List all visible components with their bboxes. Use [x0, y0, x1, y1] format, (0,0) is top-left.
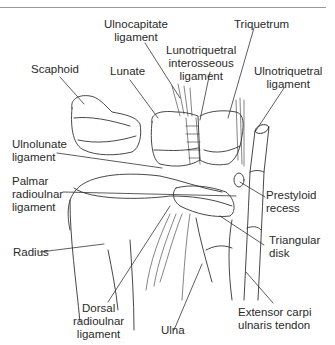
label-extensor-carpi-ulnaris-tendon: Extensor carpi ulnaris tendon — [238, 306, 312, 332]
label-ulna: Ulna — [161, 324, 185, 337]
label-palmar-radioulnar-ligament: Palmar radioulnar ligament — [12, 175, 63, 214]
scaphoid-bone — [72, 96, 141, 155]
dorsal-fibers — [146, 214, 190, 300]
label-scaphoid: Scaphoid — [31, 63, 79, 76]
triangular-disk-shape — [173, 186, 234, 217]
label-triquetrum: Triquetrum — [234, 18, 289, 31]
prestyloid-recess-shape — [234, 173, 244, 187]
label-ulnolunate-ligament: Ulnolunate ligament — [12, 138, 67, 164]
ulna-bone — [196, 218, 232, 300]
label-lunate: Lunate — [110, 65, 145, 78]
label-dorsal-radioulnar-ligament: Dorsal radioulnar ligament — [73, 302, 124, 341]
label-ulnocapitate-ligament: Ulnocapitate ligament — [104, 18, 168, 44]
label-lunotriquetral-interosseous-ligament: Lunotriquetral interosseous ligament — [166, 44, 236, 83]
lunotriquetral-hatch — [186, 118, 200, 164]
label-prestyloid-recess: Prestyloid recess — [266, 189, 317, 215]
label-triangular-disk: Triangular disk — [269, 234, 320, 260]
ulnocapitate-fibers — [172, 84, 244, 166]
label-radius: Radius — [13, 246, 49, 259]
label-ulnotriquetral-ligament: Ulnotriquetral ligament — [254, 65, 322, 91]
